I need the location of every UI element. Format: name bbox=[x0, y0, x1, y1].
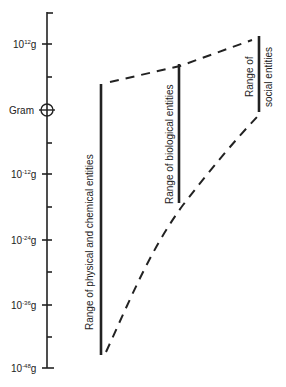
mass-axis bbox=[42, 12, 54, 368]
lower-envelope bbox=[106, 116, 258, 352]
upper-envelope bbox=[110, 40, 252, 82]
tick-label-1e-48: 10-48g bbox=[11, 363, 36, 374]
tick-label-1e-24: 10-24g bbox=[11, 235, 36, 246]
tick-label-gram: Gram bbox=[9, 105, 34, 116]
biological-range-label: Range of biological entities bbox=[164, 84, 175, 204]
tick-label-1e-12: 10-12g bbox=[11, 169, 36, 180]
tick-label-1e12: 1012g bbox=[13, 39, 36, 50]
physical-range-label: Range of physical and chemical entities bbox=[84, 154, 95, 330]
diagram-canvas: 1012g Gram 10-12g 10-24g 10-36g 10-48g R… bbox=[0, 0, 286, 387]
mass-range-diagram: 1012g Gram 10-12g 10-24g 10-36g 10-48g R… bbox=[0, 0, 286, 387]
range-bars bbox=[101, 36, 259, 355]
social-range-label-1: Range of bbox=[244, 56, 255, 97]
social-range-label-2: social entities bbox=[263, 47, 274, 107]
dashed-envelope bbox=[106, 40, 258, 352]
tick-label-1e-36: 10-36g bbox=[11, 300, 36, 311]
